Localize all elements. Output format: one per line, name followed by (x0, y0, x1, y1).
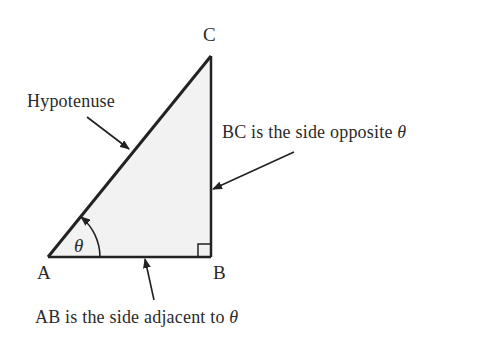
hypotenuse-label: Hypotenuse (27, 92, 115, 110)
adjacent-theta-symbol: θ (229, 307, 238, 327)
opposite-theta-symbol: θ (397, 122, 406, 142)
vertex-label-a: A (37, 263, 51, 282)
vertex-label-c: C (203, 25, 216, 44)
vertex-label-b: B (213, 263, 226, 282)
diagram-canvas: C A B θ Hypotenuse BC is the side opposi… (0, 0, 504, 339)
hypotenuse-pointer-arrow (87, 117, 129, 149)
opposite-side-label: BC is the side opposite θ (222, 123, 406, 141)
triangle-figure (0, 0, 504, 339)
opposite-pointer-arrow (213, 152, 294, 189)
angle-theta-symbol: θ (74, 236, 83, 255)
adjacent-side-label: AB is the side adjacent to θ (35, 308, 238, 326)
opposite-side-text: BC is the side opposite (222, 122, 397, 142)
adjacent-pointer-arrow (145, 259, 154, 300)
adjacent-side-text: AB is the side adjacent to (35, 307, 229, 327)
